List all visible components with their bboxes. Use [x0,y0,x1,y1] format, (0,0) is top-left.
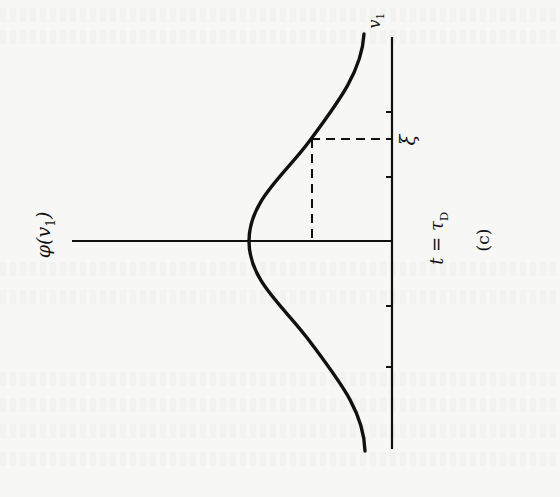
panel-label: (c) [473,229,493,252]
x-axis-label: v1 [365,13,386,29]
xi-marker-label: ξ [396,134,420,145]
time-condition-label: t = τD [426,212,451,265]
scanned-page: φ(v1) v1 ξ t = τD (c) [0,0,560,497]
y-axis-label: φ(v1) [32,212,58,259]
phi-curve [249,34,365,451]
